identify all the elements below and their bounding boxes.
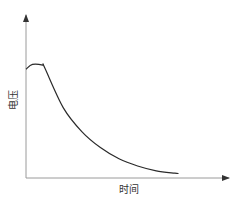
series-line-voltage bbox=[26, 64, 179, 174]
x-axis-label: 时间 bbox=[119, 183, 139, 195]
y-axis-label: 电压 bbox=[7, 90, 19, 110]
chart: 电压 时间 bbox=[0, 0, 237, 204]
